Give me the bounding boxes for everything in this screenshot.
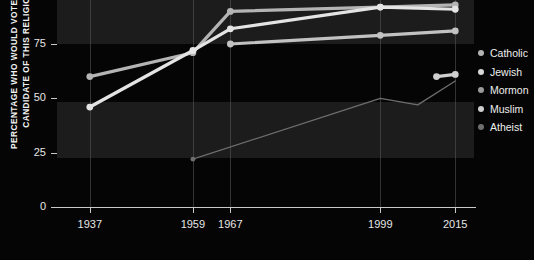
point-muslim-2011 bbox=[433, 73, 440, 80]
x-tick-1959 bbox=[193, 208, 194, 213]
line-atheist bbox=[193, 81, 455, 159]
point-atheist-1959 bbox=[190, 157, 195, 162]
x-tick-label-1967: 1967 bbox=[200, 218, 260, 230]
y-tick-label-0: 0 bbox=[0, 200, 46, 212]
x-tick-2015 bbox=[455, 208, 456, 213]
y-tick-label-75: 75 bbox=[0, 37, 46, 49]
legend-label: Catholic bbox=[490, 47, 528, 59]
point-mormon-1967 bbox=[227, 41, 234, 48]
line-mormon bbox=[230, 31, 455, 44]
legend-label: Atheist bbox=[490, 121, 522, 133]
point-mormon-2015 bbox=[452, 28, 459, 35]
point-muslim-2015 bbox=[452, 71, 459, 78]
x-tick-1999 bbox=[380, 208, 381, 213]
plot-area bbox=[57, 0, 474, 208]
y-tick-label-50: 50 bbox=[0, 91, 46, 103]
point-catholic-1967 bbox=[227, 8, 234, 15]
y-axis-title-line-2: CANDIDATE OF THIS RELIGION bbox=[20, 0, 33, 128]
y-axis-title: PERCENTAGE WHO WOULD VOTE FOR A CANDIDAT… bbox=[7, 0, 33, 167]
legend-swatch-icon bbox=[478, 69, 484, 75]
legend-item-atheist[interactable]: Atheist bbox=[478, 118, 534, 137]
point-jewish-1967 bbox=[227, 25, 234, 32]
line-jewish bbox=[90, 7, 455, 107]
x-tick-1967 bbox=[230, 208, 231, 213]
chart-figure: PERCENTAGE WHO WOULD VOTE FOR A CANDIDAT… bbox=[0, 0, 534, 260]
point-mormon-1999 bbox=[377, 32, 384, 39]
y-axis-title-line-1: PERCENTAGE WHO WOULD VOTE FOR A bbox=[7, 0, 20, 149]
legend-label: Jewish bbox=[490, 66, 522, 78]
y-tick-50 bbox=[51, 98, 57, 99]
point-jewish-2015 bbox=[452, 6, 459, 13]
legend-swatch-icon bbox=[478, 50, 484, 56]
point-jewish-1959 bbox=[189, 47, 196, 54]
y-tick-25 bbox=[51, 153, 57, 154]
x-tick-label-1999: 1999 bbox=[350, 218, 410, 230]
series-lines bbox=[57, 0, 474, 208]
y-tick-0 bbox=[51, 207, 57, 208]
legend-swatch-icon bbox=[478, 106, 484, 112]
legend-swatch-icon bbox=[478, 87, 484, 93]
legend-item-muslim[interactable]: Muslim bbox=[478, 100, 534, 119]
legend-item-jewish[interactable]: Jewish bbox=[478, 63, 534, 82]
legend: CatholicJewishMormonMuslimAtheist bbox=[478, 44, 534, 137]
legend-swatch-icon bbox=[478, 124, 484, 130]
x-tick-1937 bbox=[90, 208, 91, 213]
legend-item-catholic[interactable]: Catholic bbox=[478, 44, 534, 63]
legend-label: Mormon bbox=[490, 84, 529, 96]
point-jewish-1999 bbox=[377, 4, 384, 11]
x-axis-line bbox=[57, 207, 476, 208]
x-tick-label-2015: 2015 bbox=[425, 218, 485, 230]
y-tick-label-25: 25 bbox=[0, 146, 46, 158]
y-tick-75 bbox=[51, 44, 57, 45]
point-jewish-1937 bbox=[86, 104, 93, 111]
legend-label: Muslim bbox=[490, 103, 523, 115]
legend-item-mormon[interactable]: Mormon bbox=[478, 81, 534, 100]
point-catholic-1937 bbox=[86, 73, 93, 80]
x-tick-label-1937: 1937 bbox=[60, 218, 120, 230]
